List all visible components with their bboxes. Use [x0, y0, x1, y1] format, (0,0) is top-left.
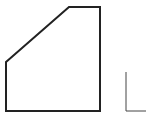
pentagon-shape	[6, 7, 100, 111]
diagram-canvas	[0, 0, 152, 124]
l-corner-mark	[126, 72, 146, 111]
